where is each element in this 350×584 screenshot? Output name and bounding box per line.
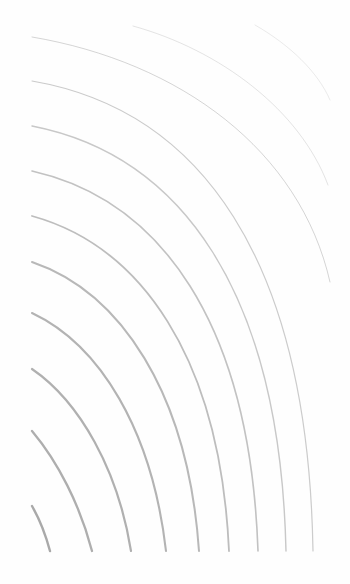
curve-line-4 <box>32 313 166 551</box>
curve-line-12 <box>255 25 330 100</box>
curve-line-2 <box>32 431 92 551</box>
curve-line-1 <box>32 506 50 551</box>
decorative-artwork <box>0 0 350 584</box>
concentric-curves-graphic <box>0 0 350 584</box>
curve-line-10 <box>32 37 330 282</box>
curve-line-5 <box>32 262 199 551</box>
curve-line-9 <box>32 81 313 551</box>
curve-line-6 <box>32 216 229 551</box>
curve-line-3 <box>32 369 131 551</box>
curve-line-11 <box>133 26 328 185</box>
